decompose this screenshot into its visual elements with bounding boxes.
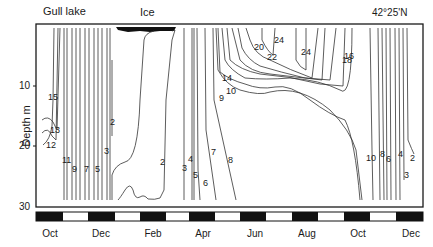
svg-text:6: 6 [386,154,391,164]
contour-labels: 15 13 12 11 9 7 5 3 2 2 3 4 5 6 7 8 14 1… [46,35,415,188]
svg-text:6: 6 [203,178,208,188]
svg-text:2: 2 [160,157,165,167]
svg-text:14: 14 [222,73,232,83]
x-tick-jun: Jun [240,228,270,239]
svg-text:12: 12 [46,140,56,150]
svg-text:7: 7 [211,147,216,157]
x-tick-feb: Feb [138,228,168,239]
svg-text:3: 3 [104,146,109,156]
ice-cover-shape [116,27,176,32]
month-bar [36,212,423,221]
contour-lines [42,28,414,200]
svg-text:22: 22 [267,52,277,62]
svg-text:9: 9 [219,93,224,103]
svg-text:4: 4 [188,154,193,164]
svg-text:16: 16 [344,51,354,61]
contour-plot: 15 13 12 11 9 7 5 3 2 2 3 4 5 6 7 8 14 1… [0,0,433,247]
svg-text:3: 3 [404,170,409,180]
svg-text:5: 5 [193,170,198,180]
svg-text:7: 7 [84,164,89,174]
x-tick-oct: Oct [35,228,65,239]
svg-text:4: 4 [398,149,403,159]
x-tick-aug: Aug [292,228,322,239]
svg-text:8: 8 [228,155,233,165]
svg-text:5: 5 [95,164,100,174]
svg-text:2: 2 [110,117,115,127]
svg-text:11: 11 [62,155,71,165]
x-tick-apr: Apr [188,228,218,239]
svg-text:15: 15 [48,92,58,102]
svg-text:24: 24 [274,35,284,45]
x-tick-oct-2: Oct [343,228,373,239]
svg-text:3: 3 [182,163,187,173]
svg-text:9: 9 [72,164,77,174]
svg-text:10: 10 [366,153,376,163]
svg-text:20: 20 [254,42,264,52]
svg-text:13: 13 [50,125,60,135]
svg-text:2: 2 [410,153,415,163]
svg-text:8: 8 [380,149,385,159]
x-tick-dec-2: Dec [396,228,426,239]
x-tick-dec: Dec [86,228,116,239]
svg-text:24: 24 [301,47,311,57]
svg-text:10: 10 [226,86,236,96]
